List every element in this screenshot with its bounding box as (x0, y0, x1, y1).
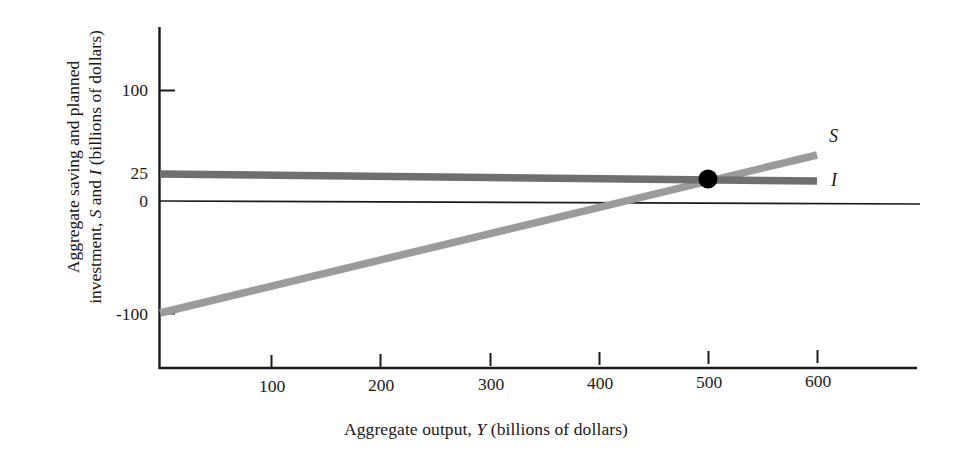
y-axis-title-line2: investment, S and I (billions of dollars… (84, 30, 106, 304)
curve-label-s: S (829, 126, 838, 147)
x-axis-title: Aggregate output, Y (billions of dollars… (0, 419, 972, 440)
y-axis-title-variable-i: I (85, 170, 105, 176)
chart-plot-area (0, 0, 972, 468)
x-axis-title-variable: Y (476, 419, 486, 439)
y-axis-title-variable-s: S (85, 210, 105, 219)
x-tick-label-300: 300 (478, 374, 504, 395)
curve-label-i: I (831, 170, 837, 191)
y-axis-title-line2-pre: investment, (85, 218, 105, 304)
figure-container: 100 25 0 -100 100 200 300 400 500 600 S … (0, 0, 972, 468)
y-axis-title-line1: Aggregate saving and planned (62, 61, 84, 273)
y-axis-title: Aggregate saving and planned investment,… (60, 0, 108, 347)
x-tick-label-200: 200 (368, 375, 394, 396)
x-tick-label-100: 100 (259, 376, 285, 397)
x-tick-label-500: 500 (696, 372, 722, 393)
equilibrium-point-marker (699, 170, 718, 189)
x-axis-title-post: (billions of dollars) (486, 419, 628, 439)
zero-line (160, 201, 921, 204)
x-axis-title-pre: Aggregate output, (344, 419, 477, 439)
x-tick-label-400: 400 (587, 373, 613, 394)
y-axis-title-line2-post: (billions of dollars) (85, 30, 105, 170)
y-axis-title-line2-mid: and (85, 176, 105, 210)
x-tick-label-600: 600 (805, 371, 831, 392)
